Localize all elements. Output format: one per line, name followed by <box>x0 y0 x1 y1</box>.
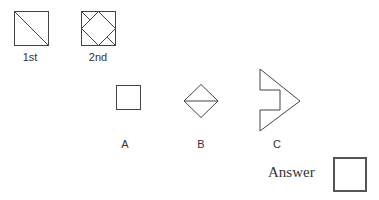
option-b-shape <box>184 85 218 118</box>
figure-1st-label: 1st <box>15 51 45 63</box>
option-a-label: A <box>110 138 140 150</box>
option-a-shape <box>117 86 141 110</box>
puzzle-canvas <box>0 0 379 200</box>
option-c-label: C <box>262 138 292 150</box>
option-b-label: B <box>186 138 216 150</box>
answer-label: Answer <box>268 164 315 181</box>
option-c-shape <box>260 69 300 131</box>
figure-1st <box>15 12 49 46</box>
figure-2nd <box>82 12 116 46</box>
figure-2nd-label: 2nd <box>83 51 113 63</box>
answer-box[interactable] <box>333 157 367 192</box>
